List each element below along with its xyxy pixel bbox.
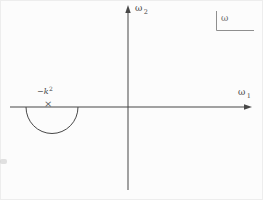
pole-marker-icon: ×	[44, 99, 52, 109]
horizontal-axis-label: ω1	[238, 88, 251, 99]
contour-indentation-arc	[26, 107, 78, 134]
vertical-axis-label-subscript: 2	[144, 8, 148, 16]
omega-plane-contour-diagram: ω2 ω1 ω −k2 ×	[0, 0, 263, 200]
vertical-axis-label: ω2	[135, 4, 148, 15]
pole-label-symbol: k	[44, 87, 49, 96]
horizontal-axis-arrowhead-icon	[244, 104, 252, 109]
horizontal-axis-label-symbol: ω	[238, 87, 245, 97]
plane-label: ω	[221, 14, 228, 23]
diagram-canvas	[0, 0, 263, 200]
pole-label-exponent: 2	[49, 85, 53, 92]
pole-label: −k2	[37, 86, 53, 96]
vertical-axis-arrowhead-icon	[125, 5, 130, 13]
pole-label-minus: −	[37, 87, 44, 96]
horizontal-axis-label-subscript: 1	[247, 92, 251, 100]
vertical-axis-label-symbol: ω	[135, 3, 142, 13]
scan-artifact	[0, 159, 7, 164]
